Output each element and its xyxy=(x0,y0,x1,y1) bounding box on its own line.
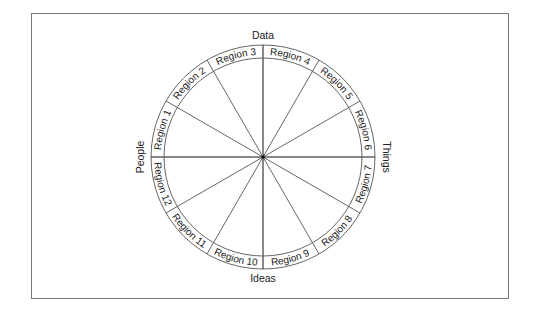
spoke-line xyxy=(263,157,349,207)
axis-label-things: Things xyxy=(381,141,393,173)
spoke-line xyxy=(263,157,313,243)
region-label: Region 4 xyxy=(269,46,312,67)
axis-label-people: People xyxy=(134,140,146,173)
ring-divider xyxy=(207,243,214,254)
center-dot xyxy=(261,155,265,159)
region-label: Region 2 xyxy=(171,64,208,101)
region-label: Region 3 xyxy=(214,46,257,67)
spoke-line xyxy=(263,108,349,158)
region-label: Region 12 xyxy=(152,162,174,208)
ring-divider xyxy=(313,60,320,71)
region-label: Region 11 xyxy=(170,211,209,250)
region-wheel: Region 1Region 2Region 3Region 4Region 5… xyxy=(0,0,536,317)
ring-divider xyxy=(313,243,320,254)
ring-divider xyxy=(349,101,360,108)
spoke-line xyxy=(214,71,264,157)
region-label: Region 7 xyxy=(353,164,374,205)
region-label: Region 9 xyxy=(270,247,311,268)
spoke-line xyxy=(177,157,263,207)
region-label: Region 5 xyxy=(319,65,356,102)
spoke-line xyxy=(263,71,313,157)
ring-divider xyxy=(207,60,214,71)
region-label: Region 1 xyxy=(152,108,173,151)
region-label: Region 8 xyxy=(319,213,354,248)
region-label: Region 10 xyxy=(213,246,259,268)
ring-divider xyxy=(166,207,177,214)
ring-divider xyxy=(349,207,360,214)
ring-divider xyxy=(166,101,177,108)
axis-label-ideas: Ideas xyxy=(250,272,276,284)
region-label: Region 6 xyxy=(353,108,374,151)
axis-label-data: Data xyxy=(252,29,274,41)
spoke-line xyxy=(177,108,263,158)
spoke-line xyxy=(214,157,264,243)
